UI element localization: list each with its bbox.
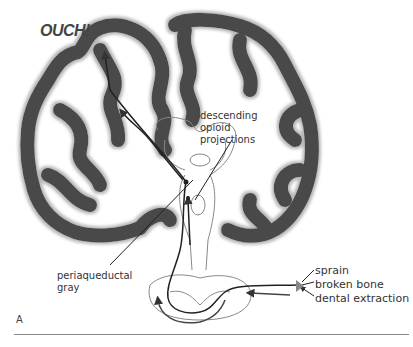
label-line: projections (200, 134, 258, 146)
label-line: descending (200, 110, 258, 122)
label-line: gray (57, 282, 132, 294)
desc-leader-line (195, 140, 232, 200)
ouch-label: OUCH! (40, 22, 90, 40)
periaqueductal-gray-label: periaqueductal gray (57, 270, 132, 294)
stimulus-dental-extraction: dental extraction (315, 292, 409, 306)
ascending-pain-pathway (105, 55, 300, 313)
pathway-node (184, 180, 189, 185)
pathway-node (186, 196, 190, 200)
stimulus-arrows (302, 270, 314, 296)
left-hemisphere-cortex (27, 25, 170, 235)
stimulus-broken-bone: broken bone (315, 278, 409, 292)
stimulus-sprain: sprain (315, 264, 409, 278)
panel-label: A (16, 314, 23, 325)
stimuli-labels: sprain broken bone dental extraction (315, 264, 409, 306)
label-line: opioid (200, 122, 258, 134)
label-line: periaqueductal (57, 270, 132, 282)
pag-leader-line (110, 180, 193, 265)
descending-opioid-projections-label: descending opioid projections (200, 110, 258, 146)
divider (14, 334, 409, 335)
